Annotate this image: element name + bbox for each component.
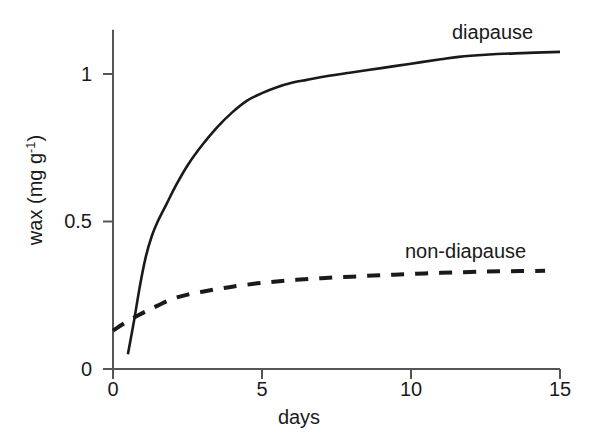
xtick-label-5: 5 [242,379,282,399]
ytick-label-1: 1 [58,64,92,84]
chart-figure: 1 0.5 0 0 5 10 15 days wax (mg g-1) diap… [0,0,598,446]
series-label-diapause: diapause [452,22,533,42]
y-axis-title-exponent: -1 [22,142,37,153]
xtick-label-0: 0 [93,379,133,399]
y-axis-title-tail: ) [24,135,46,142]
ytick-label-0: 0 [58,359,92,379]
series-line-diapause [128,52,560,354]
y-axis-title: wax (mg g-1) [25,135,45,245]
series-label-non-diapause: non-diapause [405,241,526,261]
x-axis-title: days [0,407,598,427]
y-axis-title-base: wax (mg g [24,153,46,245]
xtick-label-10: 10 [391,379,431,399]
series-line-non-diapause [113,271,545,331]
data-series [113,52,560,354]
xtick-label-15: 15 [540,379,580,399]
axes [103,30,560,379]
y-axis-title-wrapper: wax (mg g-1) [12,0,58,380]
